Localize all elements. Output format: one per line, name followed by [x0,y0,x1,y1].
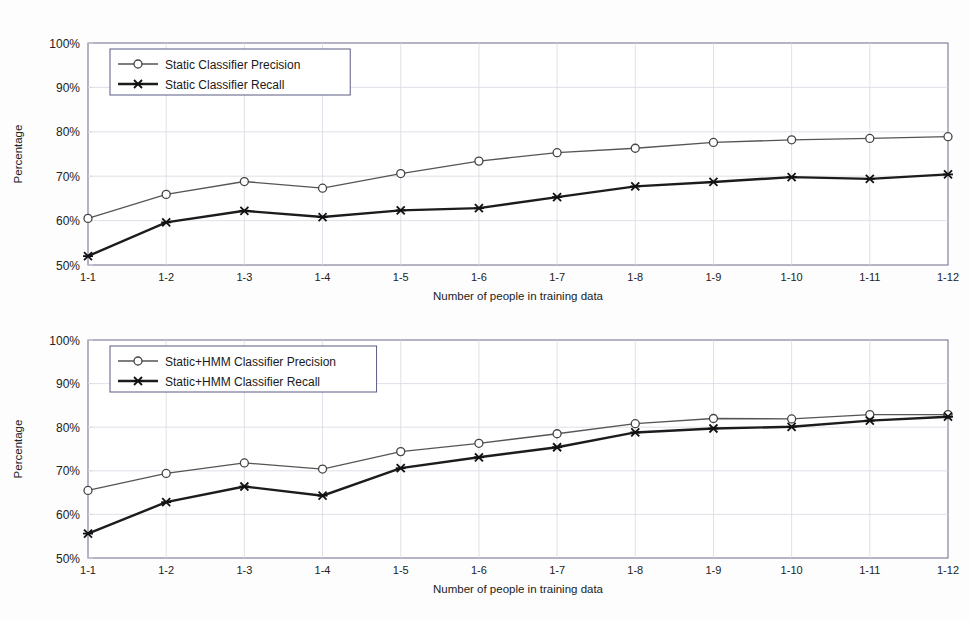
data-point-precision [397,448,405,456]
data-point-precision [84,214,92,222]
x-axis-tick-label: 1-9 [706,271,722,283]
data-point-precision [788,415,796,423]
x-axis-tick-label: 1-5 [393,564,409,576]
data-point-precision [162,469,170,477]
x-axis-tick-label: 1-8 [627,564,643,576]
x-axis-tick-label: 1-6 [471,564,487,576]
legend-label: Static+HMM Classifier Recall [165,375,320,389]
x-axis-tick-label: 1-7 [549,564,565,576]
y-axis-tick-label: 100% [49,334,80,348]
x-axis-tick-label: 1-11 [859,271,880,283]
x-axis-tick-label: 1-4 [315,564,331,576]
x-axis-tick-label: 1-1 [80,564,96,576]
data-point-precision [162,190,170,198]
data-point-precision [631,420,639,428]
x-axis-title: Number of people in training data [433,583,604,595]
x-axis-title: Number of people in training data [433,290,604,302]
x-axis-tick-label: 1-1 [80,271,96,283]
x-axis-tick-label: 1-3 [236,564,252,576]
x-axis-tick-label: 1-3 [236,271,252,283]
legend-label: Static+HMM Classifier Precision [165,355,336,369]
x-axis-tick-label: 1-4 [315,271,331,283]
x-axis-tick-label: 1-8 [627,271,643,283]
x-axis-tick-label: 1-6 [471,271,487,283]
x-axis-tick-label: 1-2 [158,271,174,283]
x-axis-tick-label: 1-5 [393,271,409,283]
legend-marker-circle-icon [134,60,142,68]
legend-marker-circle-icon [134,357,142,365]
chart-svg-bottom: 50%60%70%80%90%100%Percentage1-11-21-31-… [0,310,970,621]
x-axis-tick-label: 1-10 [781,564,803,576]
x-axis-tick-label: 1-10 [781,271,803,283]
legend-label: Static Classifier Precision [165,58,300,72]
y-axis-tick-label: 70% [56,464,80,478]
x-axis-tick-label: 1-12 [937,564,959,576]
data-point-precision [631,144,639,152]
data-point-precision [944,133,952,141]
y-axis-tick-label: 90% [56,377,80,391]
legend-label: Static Classifier Recall [165,78,284,92]
y-axis-tick-label: 60% [56,214,80,228]
data-point-precision [709,414,717,422]
x-axis-tick-label: 1-2 [158,564,174,576]
y-axis-tick-label: 60% [56,508,80,522]
y-axis-title: Percentage [12,420,24,479]
data-point-precision [475,157,483,165]
x-axis-tick-label: 1-12 [937,271,959,283]
data-point-precision [240,459,248,467]
data-point-precision [475,439,483,447]
chart-svg-top: 50%60%70%80%90%100%Percentage1-11-21-31-… [0,0,970,310]
y-axis-tick-label: 80% [56,125,80,139]
chart-panel-static-hmm-classifier: 50%60%70%80%90%100%Percentage1-11-21-31-… [0,310,970,621]
y-axis-tick-label: 50% [56,259,80,273]
y-axis-tick-label: 90% [56,81,80,95]
data-point-precision [866,134,874,142]
y-axis-tick-label: 70% [56,170,80,184]
chart-panel-static-classifier: 50%60%70%80%90%100%Percentage1-11-21-31-… [0,0,970,310]
data-point-precision [84,486,92,494]
y-axis-title: Percentage [12,125,24,184]
x-axis-tick-label: 1-7 [549,271,565,283]
data-point-precision [397,170,405,178]
y-axis-tick-label: 80% [56,421,80,435]
data-point-precision [553,430,561,438]
data-point-precision [788,136,796,144]
data-point-precision [240,178,248,186]
data-point-precision [319,184,327,192]
data-point-precision [709,138,717,146]
y-axis-tick-label: 100% [49,37,80,51]
y-axis-tick-label: 50% [56,552,80,566]
x-axis-tick-label: 1-11 [859,564,880,576]
data-point-precision [553,149,561,157]
figure-container: 50%60%70%80%90%100%Percentage1-11-21-31-… [0,0,970,621]
x-axis-tick-label: 1-9 [706,564,722,576]
data-point-precision [319,465,327,473]
